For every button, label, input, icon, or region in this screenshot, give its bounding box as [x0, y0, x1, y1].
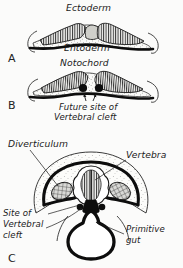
panel-b-group: Notochord Future site of Vertebral cleft… — [8, 57, 158, 122]
panel-c-group: Diverticulum Vertebra Site of Vertebral … — [3, 138, 167, 265]
label-vertebra: Vertebra — [126, 149, 167, 160]
panel-letter-c: C — [8, 252, 16, 265]
primitive-gut — [68, 211, 114, 259]
notochord-dot-right — [95, 84, 103, 92]
label-vertebral-cleft-b: Vertebral cleft — [54, 112, 117, 122]
label-vertebral: Vertebral — [3, 219, 44, 229]
panel-letter-b: B — [8, 99, 16, 112]
label-primitive: Primitive — [126, 224, 165, 234]
label-notochord: Notochord — [60, 57, 109, 68]
label-gut: gut — [126, 235, 141, 245]
embryology-diagram: Ectoderm Entoderm A Notochord Future sit… — [0, 0, 183, 268]
panel-letter-a: A — [8, 52, 16, 65]
panel-a-neural-groove — [85, 25, 98, 40]
label-ectoderm: Ectoderm — [66, 2, 111, 13]
label-future-site: Future site of — [59, 102, 119, 112]
cleft-dot-right — [99, 204, 106, 211]
figure-canvas: Ectoderm Entoderm A Notochord Future sit… — [0, 0, 183, 268]
label-cleft: cleft — [3, 230, 23, 240]
label-diverticulum: Diverticulum — [8, 138, 68, 149]
panel-a-group: Ectoderm Entoderm A — [8, 2, 158, 65]
notochord-dot-left — [79, 84, 87, 92]
cleft-arrow-left — [84, 94, 86, 101]
label-entoderm: Entoderm — [64, 42, 110, 53]
gut-flank-left — [57, 216, 68, 241]
label-site-of: Site of — [3, 208, 33, 218]
